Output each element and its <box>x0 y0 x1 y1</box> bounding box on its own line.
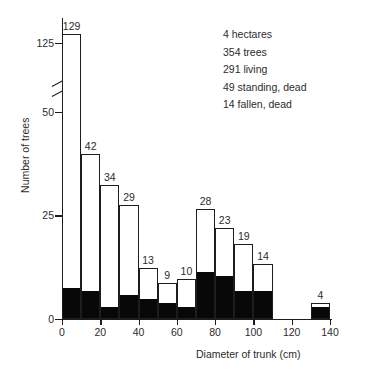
x-tick-60 <box>177 319 178 325</box>
y-tick-25 <box>55 215 62 216</box>
bar-dead-segment <box>178 307 195 317</box>
bar-value-label: 19 <box>224 231 263 242</box>
x-tick-140 <box>330 319 331 325</box>
histogram-bar <box>311 303 330 319</box>
y-tick-label-25: 25 <box>42 210 54 221</box>
histogram-bar <box>62 34 81 319</box>
annotation-line: 14 fallen, dead <box>223 96 307 114</box>
bar-dead-segment <box>63 288 80 318</box>
x-tick-80 <box>215 319 216 325</box>
bar-dead-segment <box>101 307 118 317</box>
bar-value-label: 23 <box>205 215 244 226</box>
bar-dead-segment <box>159 303 176 317</box>
x-tick-label-120: 120 <box>272 327 312 338</box>
y-tick-125 <box>55 43 62 44</box>
histogram-bar <box>253 264 272 319</box>
y-tick-label-125: 125 <box>36 38 54 49</box>
histogram-bar <box>100 185 119 318</box>
x-tick-0 <box>62 319 63 325</box>
x-tick-label-0: 0 <box>42 327 82 338</box>
histogram-bar <box>158 283 177 318</box>
x-tick-100 <box>253 319 254 325</box>
bar-value-label: 42 <box>71 141 110 152</box>
bar-dead-segment <box>120 295 137 317</box>
x-tick-label-20: 20 <box>80 327 120 338</box>
chart-figure: 0 25 50 125 0 20 40 60 80 100 120 140 12… <box>0 0 376 378</box>
y-axis-title: Number of trees <box>20 85 31 225</box>
y-tick-0 <box>55 319 62 320</box>
annotation-line: 291 living <box>223 61 307 79</box>
histogram-bar <box>215 228 234 318</box>
annotation-line: 4 hectares <box>223 26 307 44</box>
y-tick-label-0: 0 <box>48 314 54 325</box>
x-tick-label-40: 40 <box>119 327 159 338</box>
x-tick-label-80: 80 <box>195 327 235 338</box>
histogram-bar <box>177 279 196 318</box>
x-tick-label-140: 140 <box>310 327 350 338</box>
x-tick-label-60: 60 <box>157 327 197 338</box>
bar-dead-segment <box>216 276 233 318</box>
bar-value-label: 129 <box>52 21 91 32</box>
bar-value-label: 13 <box>129 255 168 266</box>
x-tick-20 <box>100 319 101 325</box>
bar-value-label: 28 <box>186 196 225 207</box>
x-tick-120 <box>292 319 293 325</box>
bar-value-label: 34 <box>90 172 129 183</box>
y-tick-label-50: 50 <box>42 107 54 118</box>
x-tick-40 <box>139 319 140 325</box>
bar-value-label: 14 <box>243 251 282 262</box>
annotation-block: 4 hectares 354 trees 291 living 49 stand… <box>223 26 307 114</box>
x-tick-label-100: 100 <box>233 327 273 338</box>
y-tick-50 <box>55 112 62 113</box>
bar-dead-segment <box>197 272 214 318</box>
bar-dead-segment <box>254 291 271 317</box>
bar-value-label: 4 <box>301 290 340 301</box>
bar-dead-segment <box>235 291 252 317</box>
x-axis-title: Diameter of trunk (cm) <box>196 349 300 360</box>
bar-dead-segment <box>312 307 329 317</box>
annotation-line: 354 trees <box>223 44 307 62</box>
bar-value-label: 29 <box>109 192 148 203</box>
bar-dead-segment <box>140 299 157 317</box>
annotation-line: 49 standing, dead <box>223 79 307 97</box>
bar-dead-segment <box>82 291 99 317</box>
